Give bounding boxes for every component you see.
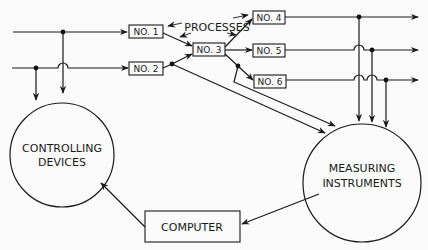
process-no2: NO. 2 <box>129 62 163 75</box>
process-label: NO. 6 <box>258 77 283 87</box>
process-no5: NO. 5 <box>253 44 285 57</box>
process-no3: NO. 3 <box>193 43 225 56</box>
output-line-4 <box>285 15 418 121</box>
controlling-devices-node: CONTROLLING DEVICES <box>10 103 114 207</box>
input-line-2 <box>12 63 128 100</box>
process-label: NO. 5 <box>257 46 282 56</box>
process-control-diagram: NO. 1 NO. 2 NO. 3 NO. 4 NO. 5 NO. 6 PROC… <box>0 0 428 250</box>
edge-no3-split <box>225 54 238 66</box>
edge-no2-no3 <box>172 54 192 64</box>
output-line-5 <box>285 45 418 122</box>
computer-label: COMPUTER <box>161 221 223 234</box>
controlling-label-line1: CONTROLLING <box>22 142 102 155</box>
measuring-label-line1: MEASURING <box>329 162 396 175</box>
measuring-label-line2: INSTRUMENTS <box>322 177 401 190</box>
process-label: NO. 2 <box>134 64 159 74</box>
input-line-1 <box>13 30 127 93</box>
measuring-instruments-node: MEASURING INSTRUMENTS <box>303 124 421 242</box>
process-no1: NO. 1 <box>129 25 163 38</box>
process-label: NO. 3 <box>197 45 222 55</box>
edge-no2-measuring <box>172 64 325 133</box>
controlling-label-line2: DEVICES <box>38 156 86 169</box>
edge-no1-no3 <box>163 33 192 46</box>
computer-node: COMPUTER <box>145 211 240 242</box>
process-label: NO. 1 <box>134 27 159 37</box>
output-line-6 <box>286 75 418 127</box>
process-no6: NO. 6 <box>254 75 286 88</box>
edge-no3-no6 <box>238 66 253 80</box>
process-no4: NO. 4 <box>253 11 285 24</box>
edge-measuring-computer <box>242 194 319 224</box>
process-label: NO. 4 <box>257 13 282 23</box>
edge-computer-controlling <box>101 183 145 227</box>
